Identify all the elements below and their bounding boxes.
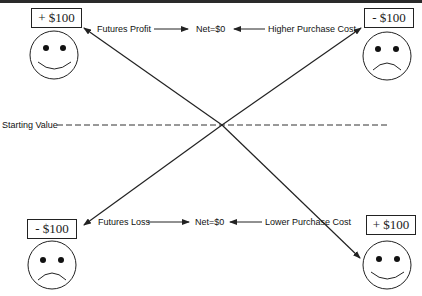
lower-purchase-cost-label: Lower Purchase Cost [265,217,351,228]
diagonal-arrow-up-right-lower [84,125,222,225]
bottom-left-value-box: - $100 [27,219,77,239]
top-net-label: Net=$0 [196,24,225,35]
diagonal-arrow-down-right [84,28,222,125]
happy-face-icon-top-left [30,31,78,79]
top-left-value-box: + $100 [31,8,82,28]
diagonal-arrow-up-right [222,28,361,125]
higher-purchase-cost-label: Higher Purchase Cost [268,24,356,35]
sad-face-icon-bottom-left [28,241,76,289]
starting-value-label: Starting Value [2,120,58,131]
diagram-canvas [0,0,422,296]
bottom-right-value-box: + $100 [366,215,416,235]
futures-profit-label: Futures Profit [97,24,151,35]
sad-face-icon-top-right [363,32,411,80]
bottom-net-label: Net=$0 [195,217,224,228]
diagonal-arrow-down-right-lower [222,125,360,258]
futures-loss-label: Futures Loss [98,217,150,228]
happy-face-icon-bottom-right [363,241,411,289]
top-right-value-box: - $100 [364,8,414,28]
